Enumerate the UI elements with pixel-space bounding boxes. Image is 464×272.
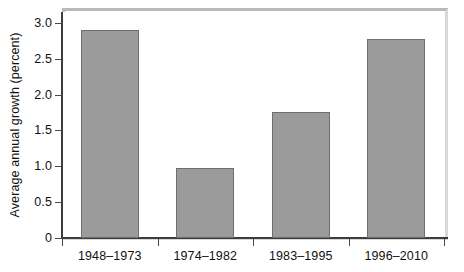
y-tick-label-text: 0.5: [4, 195, 52, 209]
bar: [367, 39, 425, 238]
bar: [176, 168, 234, 238]
y-tick-mark: [55, 166, 62, 167]
y-tick-mark: [55, 238, 62, 239]
bar: [272, 112, 330, 238]
x-tick-label: 1974–1982: [158, 249, 254, 263]
y-tick-label-text: 2.0: [4, 88, 52, 102]
y-tick-label-text: 1.5: [4, 123, 52, 137]
y-tick-label: 1.5: [0, 123, 52, 137]
y-tick-mark: [55, 202, 62, 203]
x-tick-mark: [158, 239, 159, 246]
x-tick-mark: [253, 239, 254, 246]
x-tick-mark: [62, 239, 63, 246]
y-tick-mark: [55, 95, 62, 96]
y-tick-label: 0: [0, 231, 52, 245]
y-tick-label-text: 3.0: [4, 16, 52, 30]
y-tick-mark: [55, 130, 62, 131]
y-tick-label: 3.0: [0, 16, 52, 30]
y-tick-label-text: 1.0: [4, 159, 52, 173]
y-tick-label-text: 2.5: [4, 52, 52, 66]
x-tick-label: 1948–1973: [62, 249, 158, 263]
x-tick-label: 1996–2010: [349, 249, 445, 263]
y-tick-mark: [55, 59, 62, 60]
y-tick-label-text: 0: [4, 231, 52, 245]
y-tick-mark: [55, 23, 62, 24]
y-tick-label: 0.5: [0, 195, 52, 209]
y-tick-label: 2.0: [0, 88, 52, 102]
x-tick-label: 1983–1995: [253, 249, 349, 263]
y-axis-line: [61, 12, 63, 239]
x-tick-mark: [349, 239, 350, 246]
y-tick-label: 2.5: [0, 52, 52, 66]
x-tick-mark: [444, 239, 445, 246]
bar: [81, 30, 139, 238]
bar-chart-figure: Average annual growth (percent) 00.51.01…: [0, 0, 464, 272]
y-tick-label: 1.0: [0, 159, 52, 173]
